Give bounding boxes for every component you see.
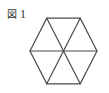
hexagon-line-group	[30, 18, 97, 84]
figure-image-canvas: 図 1	[0, 0, 109, 93]
hexagon-svg	[0, 0, 109, 93]
hexagon-figure	[0, 0, 109, 93]
